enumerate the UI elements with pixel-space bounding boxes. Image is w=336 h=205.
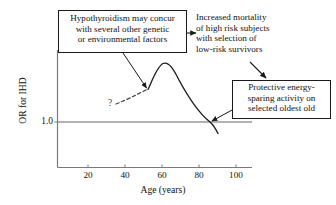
arrow-protective-to-curve [212,110,232,121]
y-tick-label-1: 1.0 [25,116,53,126]
uncertainty-question-mark: ? [108,98,112,108]
annotation-hypothyroidism: Hypothyroidism may concur with several o… [58,10,187,53]
curve-main [148,63,218,133]
annotation-protective: Protective energy- sparing activity on s… [232,80,331,119]
annotation-mortality-line-3: with selection of [196,33,320,44]
annotation-hypothyroidism-line-3: or environmental factors [59,34,186,45]
x-tick-label-60: 60 [149,170,175,180]
annotation-protective-line-3: selected oldest old [233,103,330,114]
annotation-mortality-line-1: Increased mortality [196,12,320,23]
annotation-hypothyroidism-line-2: with several other genetic [59,24,186,35]
annotation-mortality-line-4: low-risk survivors [196,44,320,55]
annotation-mortality: Increased mortality of high risk subject… [196,12,320,60]
x-axis-title: Age (years) [108,184,218,195]
annotation-mortality-line-2: of high risk subjects [196,23,320,34]
annotation-protective-line-1: Protective energy- [233,82,330,93]
x-tick-label-80: 80 [186,170,212,180]
curve-dashed-segment [116,89,148,104]
x-tick-label-40: 40 [112,170,138,180]
annotation-protective-line-2: sparing activity on [233,93,330,104]
figure-container: OR for IHD Age (years) 1.0 20 40 60 80 1… [0,0,336,205]
annotation-hypothyroidism-line-1: Hypothyroidism may concur [59,13,186,24]
arrow-hypothyroidism-to-curve [123,53,147,88]
x-tick-label-100: 100 [223,170,249,180]
x-tick-label-20: 20 [75,170,101,180]
arrow-mortality-to-protective [250,62,266,78]
